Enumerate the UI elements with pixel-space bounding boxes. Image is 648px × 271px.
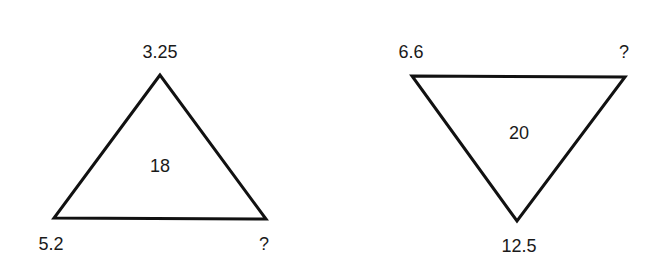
triangle-2-bottom-value: 12.5 — [501, 237, 536, 255]
triangle-diagram — [0, 0, 648, 271]
triangle-2-top-left-value: 6.6 — [398, 43, 423, 61]
triangle-2-center-value: 20 — [509, 124, 529, 142]
triangle-1-bottom-left-value: 5.2 — [38, 235, 63, 253]
triangle-up-shape — [54, 75, 266, 219]
triangle-down-shape — [412, 76, 625, 221]
triangle-1-center-value: 18 — [150, 157, 170, 175]
triangle-1-bottom-right-value: ? — [259, 235, 269, 253]
triangle-1-top-value: 3.25 — [142, 43, 177, 61]
triangle-2-top-right-value: ? — [619, 43, 629, 61]
